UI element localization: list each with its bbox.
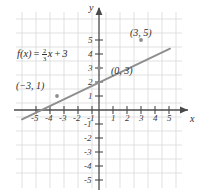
x-tick-label-4: 4 (153, 114, 158, 123)
y-tick-label-2: 2 (88, 78, 93, 87)
point-marker-0-3 (97, 66, 101, 70)
y-axis-name: y (89, 3, 93, 13)
y-tick-label-neg2: -2 (84, 134, 92, 143)
y-tick-label-3: 3 (88, 64, 93, 73)
y-tick-label-4: 4 (88, 50, 93, 59)
x-tick-label-neg2: -2 (73, 114, 81, 123)
fraction-denominator: 3 (42, 54, 47, 62)
function-equation-label: f(x)=23x+3 (17, 47, 68, 62)
point-marker-neg3-1 (55, 94, 59, 98)
y-tick-label-neg5: -5 (84, 176, 92, 185)
x-tick-label-1: 1 (111, 114, 116, 123)
plus-sign: + (52, 48, 62, 59)
y-tick-label-1: 1 (88, 92, 93, 101)
y-tick-label-5: 5 (88, 36, 93, 45)
y-tick-label-neg1: -1 (84, 120, 92, 129)
constant-term: 3 (62, 48, 67, 59)
y-tick-label-neg3: -3 (84, 148, 92, 157)
function-name: f(x) (17, 48, 32, 59)
coordinate-plane (0, 0, 206, 196)
x-axis-arrowhead (180, 107, 188, 114)
slope-fraction: 23 (42, 47, 47, 62)
graph-figure: f(x)=23x+3 (3, 5) (0, 3) (−3, 1) x y -5 … (0, 0, 206, 196)
x-tick-label-5: 5 (167, 114, 172, 123)
point-marker-3-5 (139, 38, 143, 42)
point-label-3-5: (3, 5) (130, 28, 152, 38)
x-axis-name: x (190, 114, 194, 124)
x-tick-label-neg5: -5 (31, 114, 39, 123)
point-label-0-3: (0, 3) (111, 66, 133, 76)
y-axis-arrowhead (96, 7, 103, 15)
equals-sign: = (32, 48, 42, 59)
y-tick-label-neg4: -4 (84, 162, 92, 171)
fraction-numerator: 2 (42, 47, 47, 54)
x-tick-label-2: 2 (125, 114, 130, 123)
point-label-neg3-1: (−3, 1) (16, 81, 44, 91)
x-tick-label-neg3: -3 (59, 114, 67, 123)
x-tick-label-3: 3 (139, 114, 144, 123)
x-tick-label-neg4: -4 (45, 114, 53, 123)
